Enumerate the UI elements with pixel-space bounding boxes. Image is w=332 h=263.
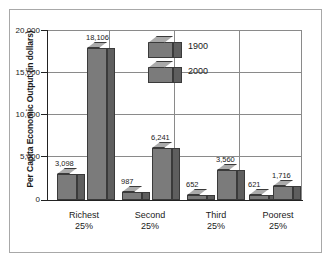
bar-richest-2000[interactable] (87, 42, 115, 200)
bar-side-face (172, 148, 180, 200)
y-tick-label-15000: 15,000 (16, 68, 40, 77)
cube-side-face (173, 67, 182, 83)
x-category-poorest: Poorest 25% (244, 210, 312, 232)
x-category-richest-line2: 25% (50, 221, 118, 232)
y-axis-tick-labels: 20,000 15,000 10,000 5,000 0 (0, 0, 40, 263)
cube-front-face (148, 67, 173, 83)
plot-right-edge (301, 30, 302, 200)
bar-value-poorest-2000: 1,716 (272, 171, 291, 180)
y-axis-line (47, 30, 48, 201)
x-category-second-line1: Second (116, 210, 184, 221)
bar-second-2000[interactable] (152, 142, 180, 200)
legend-label-1900: 1900 (188, 41, 208, 51)
bar-front-face (122, 192, 142, 200)
bar-value-poorest-1900: 621 (248, 180, 261, 189)
bar-side-face (107, 48, 115, 200)
cube-icon-2000 (148, 61, 182, 83)
cube-icon-1900 (148, 36, 182, 58)
bar-value-third-1900: 652 (186, 180, 199, 189)
bar-front-face (273, 186, 293, 200)
bar-third-2000[interactable] (217, 164, 245, 200)
bar-side-face (237, 170, 245, 200)
cube-front-face (148, 42, 173, 58)
bar-front-face (249, 195, 269, 200)
x-category-poorest-line1: Poorest (244, 210, 312, 221)
x-category-richest: Richest 25% (50, 210, 118, 232)
cube-side-face (173, 42, 182, 58)
x-category-second-line2: 25% (116, 221, 184, 232)
bar-side-face (142, 192, 150, 200)
x-category-richest-line1: Richest (50, 210, 118, 221)
x-category-third-line1: Third (182, 210, 250, 221)
bar-side-face (293, 186, 301, 200)
bar-side-face (77, 174, 85, 200)
bar-second-1900[interactable] (122, 186, 150, 200)
x-category-third-line2: 25% (182, 221, 250, 232)
bar-third-1900[interactable] (187, 189, 215, 200)
bar-value-third-2000: 3,560 (216, 155, 235, 164)
bar-value-richest-2000: 18,106 (86, 33, 109, 42)
bar-value-richest-1900: 3,098 (55, 159, 74, 168)
bar-poorest-2000[interactable] (273, 180, 301, 200)
x-category-third: Third 25% (182, 210, 250, 232)
bar-richest-1900[interactable] (57, 168, 85, 200)
bar-value-second-1900: 987 (121, 177, 134, 186)
x-category-poorest-line2: 25% (244, 221, 312, 232)
bar-side-face (207, 195, 215, 200)
bar-front-face (152, 148, 172, 200)
x-axis-line (47, 200, 303, 201)
chart-legend: 1900 2000 (148, 36, 238, 90)
x-category-second: Second 25% (116, 210, 184, 232)
legend-label-2000: 2000 (188, 66, 208, 76)
y-tick-label-10000: 10,000 (16, 110, 40, 119)
y-tick-label-5000: 5,000 (20, 152, 40, 161)
chart-figure: Per Capita Economic Output (in dollars) … (0, 0, 332, 263)
bar-front-face (217, 170, 237, 200)
bar-front-face (187, 195, 207, 200)
y-tick-label-20000: 20,000 (16, 26, 40, 35)
bar-front-face (87, 48, 107, 200)
bar-front-face (57, 174, 77, 200)
bar-value-second-2000: 6,241 (151, 133, 170, 142)
y-tick-label-0: 0 (36, 195, 40, 204)
